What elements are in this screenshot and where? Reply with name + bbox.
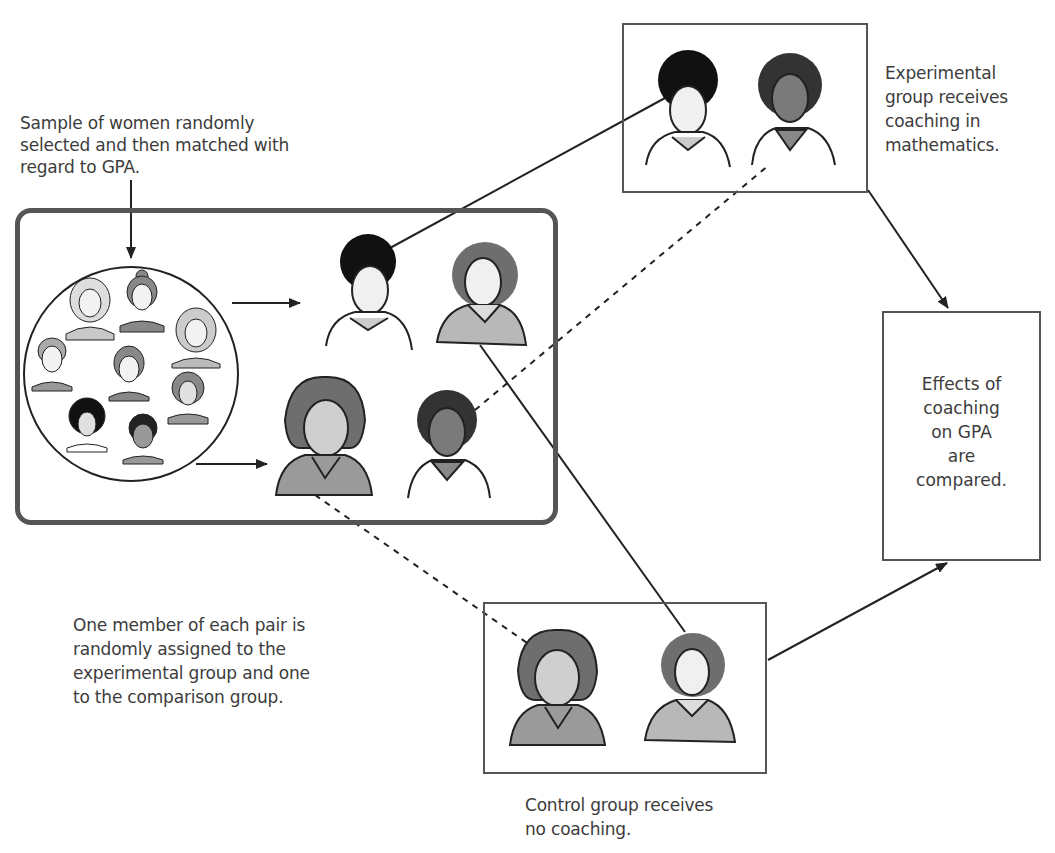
assignment-label-line-2: randomly assigned to the [73, 637, 310, 661]
control-group-box [483, 602, 767, 774]
experimental-label-line-3: coaching in [885, 109, 1008, 133]
outcome-box: Effects of coaching on GPA are compared. [882, 311, 1041, 561]
experimental-label-line-4: mathematics. [885, 133, 1008, 157]
assignment-label-line-1: One member of each pair is [73, 613, 310, 637]
sample-label-line-3: regard to GPA. [20, 156, 289, 178]
control-label-line-1: Control group receives [525, 793, 713, 817]
outcome-line-4: are [916, 444, 1007, 468]
matched-pairs-container [15, 208, 558, 525]
assignment-label-line-3: experimental group and one [73, 661, 310, 685]
experimental-label-line-1: Experimental [885, 61, 1008, 85]
ctrl-to-outcome-arrow [768, 563, 947, 660]
outcome-line-5: compared. [916, 468, 1007, 492]
exp-to-outcome-arrow [868, 190, 948, 308]
experimental-label: Experimental group receives coaching in … [885, 61, 1008, 157]
experimental-group-box [622, 23, 868, 193]
assignment-label: One member of each pair is randomly assi… [73, 613, 310, 709]
control-label: Control group receives no coaching. [525, 793, 713, 841]
assignment-label-line-4: to the comparison group. [73, 685, 310, 709]
outcome-line-2: coaching [916, 396, 1007, 420]
sample-label: Sample of women randomly selected and th… [20, 112, 289, 178]
control-label-line-2: no coaching. [525, 817, 713, 841]
sample-label-line-1: Sample of women randomly [20, 112, 289, 134]
outcome-line-1: Effects of [916, 372, 1007, 396]
outcome-line-3: on GPA [916, 420, 1007, 444]
sample-label-line-2: selected and then matched with [20, 134, 289, 156]
experimental-label-line-2: group receives [885, 85, 1008, 109]
